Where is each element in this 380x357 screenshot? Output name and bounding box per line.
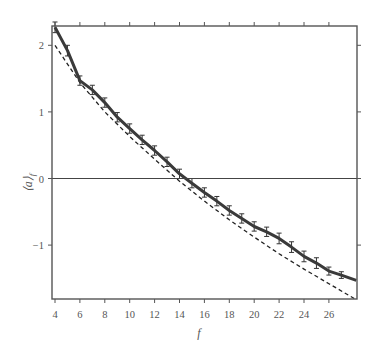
x-tick-label: 20: [249, 309, 260, 320]
x-tick-label: 10: [124, 309, 135, 320]
x-tick-label: 12: [149, 309, 160, 320]
y-tick-label: 1: [39, 107, 44, 118]
chart: 468101214161820222426 −1012 f ⟨a⟩f: [0, 0, 380, 357]
y-tick-label: −1: [33, 240, 44, 251]
y-tick-label: 0: [39, 174, 44, 185]
x-tick-label: 26: [324, 309, 335, 320]
plot-frame: [52, 26, 357, 299]
x-tick-label: 24: [299, 309, 310, 320]
x-tick-label: 14: [174, 309, 185, 320]
y-axis: −1012: [33, 40, 361, 251]
x-tick-label: 6: [77, 309, 82, 320]
x-axis: 468101214161820222426: [52, 22, 334, 320]
error-bars: [53, 22, 344, 278]
x-tick-label: 8: [102, 309, 107, 320]
y-axis-label: ⟨a⟩f: [21, 172, 37, 192]
x-tick-label: 18: [224, 309, 235, 320]
x-tick-label: 22: [274, 309, 285, 320]
x-tick-label: 16: [199, 309, 210, 320]
y-tick-label: 2: [39, 40, 44, 51]
measured-data-line: [55, 27, 356, 280]
x-tick-label: 4: [52, 309, 58, 320]
x-axis-label: f: [197, 326, 202, 340]
